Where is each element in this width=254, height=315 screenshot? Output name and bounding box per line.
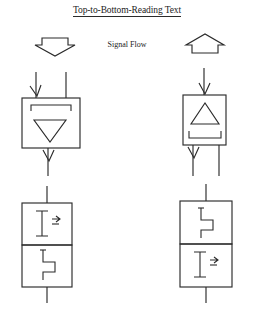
- block-box-lower: [180, 244, 232, 287]
- zigzag-step-icon: [198, 208, 213, 238]
- diagram-lower-right: [0, 0, 254, 315]
- i-beam-with-arrow-icon: [194, 252, 218, 277]
- diagram-canvas: Top-to-Bottom-Reading Text Signal Flow: [0, 0, 254, 315]
- block-box-upper: [180, 201, 232, 244]
